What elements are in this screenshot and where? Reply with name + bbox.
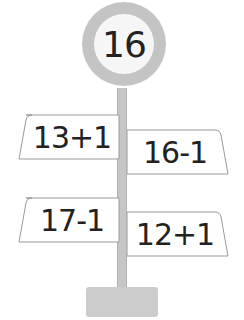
pole-base <box>86 287 158 317</box>
sign-left-upper[interactable]: 13+1 <box>18 114 120 160</box>
sign-expression: 12+1 <box>127 211 229 257</box>
sign-expression: 16-1 <box>127 129 229 175</box>
target-number: 16 <box>94 14 154 74</box>
sign-expression: 13+1 <box>18 114 120 160</box>
sign-left-lower[interactable]: 17-1 <box>18 197 120 243</box>
sign-right-upper[interactable]: 16-1 <box>127 129 229 175</box>
sign-expression: 17-1 <box>18 197 120 243</box>
sign-right-lower[interactable]: 12+1 <box>127 211 229 257</box>
